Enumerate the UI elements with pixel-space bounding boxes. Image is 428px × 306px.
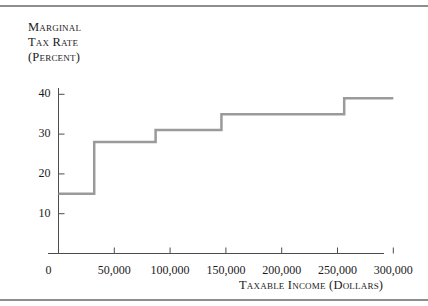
x-tick-label-250,000: 250,000 [308,263,368,278]
axis-origin-label: 0 [46,263,52,278]
x-tick-label-300,000: 300,000 [363,263,423,278]
chart-svg [0,0,428,306]
y-axis-ticks [59,94,65,213]
y-tick-label-10: 10 [25,206,51,221]
axes [48,88,384,254]
x-tick-label-100,000: 100,000 [140,263,200,278]
y-tick-label-30: 30 [25,126,51,141]
marginal-tax-rate-step-line [59,98,394,194]
x-tick-label-150,000: 150,000 [196,263,256,278]
x-axis-title: Taxable Income (Dollars) [239,278,383,293]
x-tick-label-200,000: 200,000 [252,263,312,278]
x-axis-ticks [114,248,393,254]
tax-rate-figure: Marginal Tax Rate (Percent) 10203040050,… [0,0,428,306]
y-tick-label-40: 40 [25,86,51,101]
x-tick-label-50,000: 50,000 [84,263,144,278]
plot-area [0,0,428,306]
y-tick-label-20: 20 [25,166,51,181]
